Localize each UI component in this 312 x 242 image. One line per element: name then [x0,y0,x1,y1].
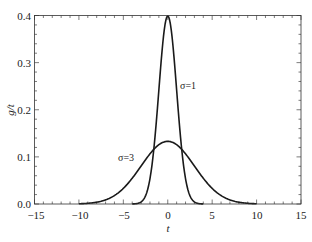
x-tick-label: −15 [27,209,45,221]
annotation-sigma-3: σ=3 [118,152,134,163]
minor-ticks [35,16,302,205]
x-tick-label: 5 [209,209,215,221]
x-tick-label: −5 [118,209,130,221]
x-tick-label: 15 [296,209,308,221]
curve-sigma-3 [79,141,257,203]
x-axis-label: t [166,222,170,234]
y-tick-label: 0.3 [17,57,31,69]
gaussian-chart: 0.0 0.1 0.2 0.3 0.4 −15 −10 −5 0 5 10 15… [0,0,312,242]
x-tick-label: −10 [71,209,89,221]
annotation-sigma-1: σ=1 [180,80,196,91]
x-tick-label: 0 [165,209,171,221]
y-tick-label: 0.4 [17,10,31,22]
x-tick-label: 10 [252,209,264,221]
y-tick-label: 0.1 [17,151,31,163]
y-axis-label: g/t [4,103,16,116]
curve-sigma-1 [132,16,203,204]
y-tick-label: 0.2 [17,104,31,116]
plot-frame [35,16,302,205]
major-ticks [35,16,302,205]
